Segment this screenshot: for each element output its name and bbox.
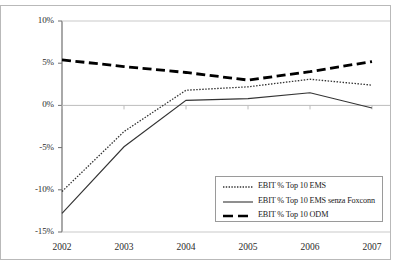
y-axis-tick-label: 0%: [20, 99, 54, 109]
y-axis-tick-label: -5%: [20, 142, 54, 152]
legend-label-ems-senza-foxconn: EBIT % Top 10 EMS senza Foxconn: [258, 196, 375, 205]
y-axis-tick-label: 5%: [20, 57, 54, 67]
x-axis-tick-label: 2006: [288, 242, 332, 252]
x-axis-tick-label: 2003: [102, 242, 146, 252]
legend-item-ebit-top10-odm: EBIT % Top 10 ODM: [216, 208, 382, 223]
legend-label-ems: EBIT % Top 10 EMS: [258, 181, 326, 190]
legend-label-odm: EBIT % Top 10 ODM: [258, 210, 328, 219]
x-axis-tick-label: 2004: [164, 242, 208, 252]
x-axis-tick-label: 2007: [350, 242, 394, 252]
legend-swatch-dotted-icon: [222, 179, 254, 194]
plot-area: [0, 0, 402, 267]
legend-item-ebit-top10-ems-senza-foxconn: EBIT % Top 10 EMS senza Foxconn: [216, 194, 382, 209]
y-axis-tick-label: -15%: [20, 226, 54, 236]
x-axis-tick-label: 2005: [226, 242, 270, 252]
series-line-2: [62, 60, 372, 80]
chart-container: 10%5%0%-5%-10%-15% 200220032004200520062…: [0, 0, 402, 267]
y-axis-tick-label: -10%: [20, 184, 54, 194]
legend-swatch-dashed-icon: [222, 208, 254, 223]
legend-item-ebit-top10-ems: EBIT % Top 10 EMS: [216, 179, 382, 194]
x-axis-tick-label: 2002: [40, 242, 84, 252]
legend-swatch-solid-icon: [222, 194, 254, 209]
chart-legend: EBIT % Top 10 EMS EBIT % Top 10 EMS senz…: [215, 176, 383, 222]
y-axis-tick-label: 10%: [20, 15, 54, 25]
